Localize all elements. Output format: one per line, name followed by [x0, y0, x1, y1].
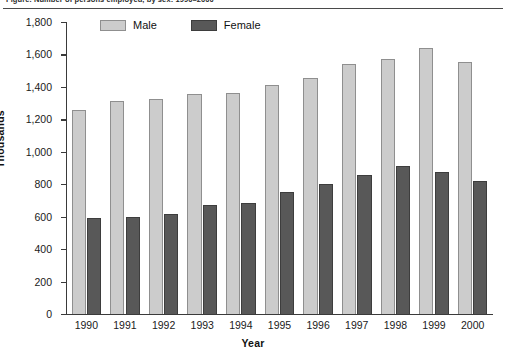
bar-male-1995[interactable] — [265, 85, 279, 314]
x-tick-label-1994: 1994 — [229, 319, 252, 331]
bar-female-1994[interactable] — [241, 203, 255, 314]
legend-label-male: Male — [133, 19, 157, 31]
bar-group-1991 — [106, 22, 145, 314]
bar-male-1991[interactable] — [110, 101, 124, 314]
bar-group-1997 — [337, 22, 376, 314]
bar-group-2000 — [453, 22, 492, 314]
bar-male-1997[interactable] — [342, 64, 356, 314]
bar-female-1998[interactable] — [396, 166, 410, 314]
bar-group-1990 — [67, 22, 106, 314]
bar-female-1996[interactable] — [319, 184, 333, 314]
bar-male-1992[interactable] — [149, 99, 163, 314]
bar-group-1993 — [183, 22, 222, 314]
x-tick-label-1993: 1993 — [191, 319, 214, 331]
bar-male-1990[interactable] — [72, 110, 86, 314]
legend-swatch-male-icon — [100, 20, 126, 31]
x-tick-label-1998: 1998 — [384, 319, 407, 331]
y-tick-label: 200 — [34, 276, 52, 288]
bar-female-1992[interactable] — [164, 214, 178, 314]
bar-female-1993[interactable] — [203, 205, 217, 314]
x-tick-label-1997: 1997 — [345, 319, 368, 331]
x-tick-label-2000: 2000 — [461, 319, 484, 331]
bar-group-1996 — [299, 22, 338, 314]
bar-group-1995 — [260, 22, 299, 314]
plot-area: 02004006008001,0001,2001,4001,6001,800 1… — [67, 22, 492, 314]
y-tick-mark: 0 — [61, 314, 67, 315]
y-tick-label: 800 — [34, 178, 52, 190]
bar-group-1992 — [144, 22, 183, 314]
y-tick-label: 1,800 — [26, 16, 52, 28]
y-tick-label: 600 — [34, 211, 52, 223]
bar-group-1999 — [415, 22, 454, 314]
legend-label-female: Female — [224, 19, 261, 31]
bar-group-1998 — [376, 22, 415, 314]
bar-female-1995[interactable] — [280, 192, 294, 314]
y-tick-label: 1,000 — [26, 146, 52, 158]
x-tick-label-1999: 1999 — [422, 319, 445, 331]
y-axis-label: Thousands — [0, 110, 6, 168]
legend-item-male[interactable]: Male — [100, 19, 157, 31]
bar-male-1998[interactable] — [381, 59, 395, 315]
figure-title: Figure. Number of persons employed, by s… — [6, 0, 214, 4]
y-tick-label: 400 — [34, 243, 52, 255]
bar-male-1993[interactable] — [187, 94, 201, 314]
bar-female-1990[interactable] — [87, 218, 101, 314]
legend-swatch-female-icon — [191, 20, 217, 31]
x-tick-label-1995: 1995 — [268, 319, 291, 331]
title-rule — [3, 8, 503, 9]
figure-container: Figure. Number of persons employed, by s… — [0, 0, 506, 361]
bar-female-2000[interactable] — [473, 181, 487, 314]
y-tick-label: 1,200 — [26, 113, 52, 125]
bar-group-1994 — [222, 22, 261, 314]
x-axis-label: Year — [0, 337, 506, 349]
y-tick-label: 0 — [46, 308, 52, 320]
y-tick-label: 1,400 — [26, 81, 52, 93]
x-tick-label-1996: 1996 — [306, 319, 329, 331]
bar-female-1999[interactable] — [435, 172, 449, 314]
legend-item-female[interactable]: Female — [191, 19, 261, 31]
bar-male-1999[interactable] — [419, 48, 433, 314]
x-tick-label-1991: 1991 — [113, 319, 136, 331]
bar-male-1994[interactable] — [226, 93, 240, 314]
x-tick-label-1992: 1992 — [152, 319, 175, 331]
bar-group — [67, 22, 492, 314]
y-tick-label: 1,600 — [26, 48, 52, 60]
chart-legend: Male Female — [100, 19, 261, 31]
bar-female-1997[interactable] — [357, 175, 371, 314]
bar-male-1996[interactable] — [303, 78, 317, 314]
bar-female-1991[interactable] — [126, 217, 140, 314]
bar-male-2000[interactable] — [458, 62, 472, 314]
x-tick-label-1990: 1990 — [75, 319, 98, 331]
